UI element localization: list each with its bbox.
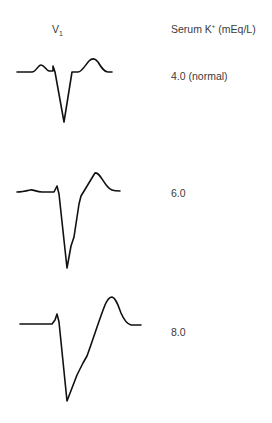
trace-label-normal: 4.0 (normal)	[171, 70, 228, 82]
trace-label-k6: 6.0	[171, 187, 186, 199]
ecg-trace-normal	[17, 59, 112, 122]
ecg-trace-k6	[17, 173, 120, 268]
trace-label-k8: 8.0	[171, 326, 186, 338]
ecg-trace-k8	[20, 297, 141, 401]
ecg-traces	[0, 0, 272, 423]
